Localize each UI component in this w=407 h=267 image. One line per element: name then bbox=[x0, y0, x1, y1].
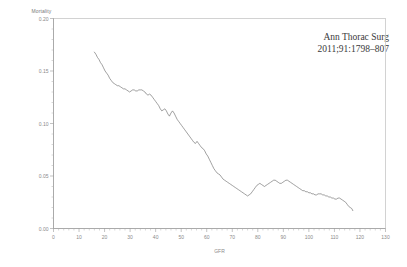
svg-text:0.10: 0.10 bbox=[39, 121, 49, 127]
svg-text:0.20: 0.20 bbox=[39, 16, 49, 22]
svg-text:120: 120 bbox=[356, 234, 365, 240]
svg-text:80: 80 bbox=[255, 234, 261, 240]
svg-text:60: 60 bbox=[204, 234, 210, 240]
svg-text:90: 90 bbox=[281, 234, 287, 240]
svg-text:100: 100 bbox=[305, 234, 314, 240]
svg-text:0: 0 bbox=[52, 234, 55, 240]
y-axis: 0.000.050.100.150.20 bbox=[39, 16, 54, 232]
plot-frame bbox=[54, 19, 386, 229]
figure-container: Mortality Ann Thorac Surg 2011;91:1798–8… bbox=[0, 0, 407, 267]
x-axis-title: GFR bbox=[214, 248, 225, 254]
svg-text:GFR: GFR bbox=[214, 248, 225, 254]
svg-text:130: 130 bbox=[381, 234, 390, 240]
chart-plot: 0102030405060708090100110120130 0.000.05… bbox=[0, 0, 407, 267]
svg-text:0.15: 0.15 bbox=[39, 68, 49, 74]
x-axis: 0102030405060708090100110120130 bbox=[52, 229, 390, 241]
svg-text:10: 10 bbox=[76, 234, 82, 240]
data-series bbox=[94, 52, 352, 211]
svg-text:70: 70 bbox=[229, 234, 235, 240]
svg-text:30: 30 bbox=[127, 234, 133, 240]
svg-text:110: 110 bbox=[330, 234, 338, 240]
svg-text:0.00: 0.00 bbox=[39, 226, 49, 232]
svg-text:20: 20 bbox=[102, 234, 108, 240]
svg-text:40: 40 bbox=[153, 234, 159, 240]
svg-text:50: 50 bbox=[178, 234, 184, 240]
svg-text:0.05: 0.05 bbox=[39, 173, 49, 179]
